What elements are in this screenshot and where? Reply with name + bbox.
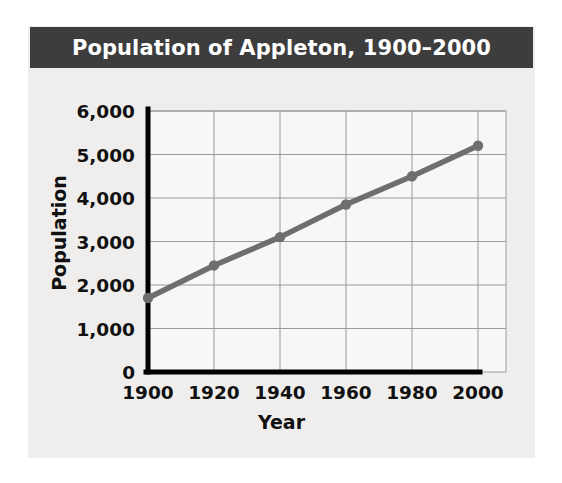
x-tick-label: 2000: [452, 382, 504, 403]
y-tick-label: 3,000: [76, 232, 135, 253]
chart-figure-panel: Population of Appleton, 1900–2000 Popula…: [28, 26, 535, 458]
y-tick-label: 4,000: [76, 188, 135, 209]
x-tick-label: 1980: [386, 382, 438, 403]
y-tick-label: 0: [122, 362, 135, 383]
y-tick-label: 2,000: [76, 275, 135, 296]
y-tick-label: 5,000: [76, 145, 135, 166]
x-tick-label: 1940: [254, 382, 306, 403]
chart-plot-svg: 01,0002,0003,0004,0005,0006,000 19001920…: [28, 26, 535, 458]
x-tick-label: 1900: [122, 382, 174, 403]
y-tick-label: 1,000: [76, 319, 135, 340]
x-tick-label: 1920: [188, 382, 240, 403]
plot-area-wrapper: 01,0002,0003,0004,0005,0006,000 19001920…: [28, 26, 535, 458]
x-axis-tick-labels: 190019201940196019802000: [122, 382, 504, 403]
y-tick-label: 6,000: [76, 101, 135, 122]
x-tick-label: 1960: [320, 382, 372, 403]
y-axis-tick-labels: 01,0002,0003,0004,0005,0006,000: [76, 101, 135, 383]
